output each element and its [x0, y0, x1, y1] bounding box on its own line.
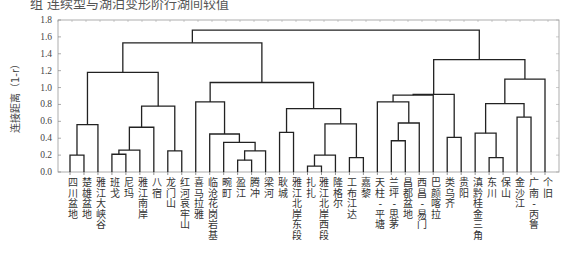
- leaf-label: 类乌齐: [445, 176, 455, 209]
- svg-text:江: 江: [292, 188, 302, 199]
- svg-text:玛: 玛: [124, 188, 134, 199]
- svg-text:龙: 龙: [166, 176, 176, 188]
- svg-text:河: 河: [180, 188, 190, 199]
- cluster-link: [325, 124, 356, 158]
- leaf-label: 金沙江: [515, 176, 525, 209]
- svg-text:楚: 楚: [82, 176, 92, 188]
- svg-text:四: 四: [68, 177, 78, 188]
- svg-text:东: 东: [487, 176, 497, 188]
- svg-text:都: 都: [403, 188, 413, 199]
- svg-text:喀: 喀: [431, 197, 441, 209]
- svg-text:岸: 岸: [292, 209, 302, 220]
- svg-text:江: 江: [236, 188, 246, 199]
- svg-text:平: 平: [375, 209, 385, 220]
- leaf-label: 天柱-平塘: [375, 177, 385, 230]
- svg-text:江: 江: [347, 198, 357, 209]
- svg-text:川: 川: [487, 188, 497, 199]
- svg-text:盈: 盈: [236, 177, 246, 188]
- svg-text:哀: 哀: [180, 197, 190, 209]
- svg-text:地: 地: [68, 208, 78, 220]
- y-axis-label: 连接距离（1-r）: [9, 59, 21, 133]
- svg-text:拉: 拉: [194, 197, 204, 209]
- svg-text:贵: 贵: [459, 176, 469, 188]
- cluster-link: [280, 132, 294, 172]
- leaf-label: 巴颜喀拉: [431, 177, 441, 220]
- svg-text:茅: 茅: [389, 219, 399, 230]
- leaf-label: 临沧花岗岩基: [208, 176, 218, 241]
- y-tick-label: 1.6: [40, 32, 52, 42]
- svg-text:塘: 塘: [375, 218, 385, 230]
- svg-text:盆: 盆: [403, 197, 413, 209]
- svg-text:花: 花: [208, 197, 218, 209]
- svg-text:雅: 雅: [96, 176, 106, 188]
- leaf-labels: 四川盆地楚雄盆地雅江大峡谷班戈尼玛雅江南岸八宿龙门山红河哀牢山喜马拉雅临沧花岗岩…: [68, 172, 553, 241]
- leaf-label: 龙门山: [166, 176, 176, 209]
- svg-text:腾: 腾: [250, 176, 260, 188]
- cluster-link: [505, 79, 545, 172]
- leaf-label: 梁河: [264, 176, 274, 199]
- y-tick-label: 0.0: [40, 167, 52, 177]
- leaf-label: 广南-丙鲁: [529, 177, 539, 230]
- cluster-link: [245, 151, 266, 172]
- svg-text:西: 西: [417, 177, 427, 188]
- leaf-label: 保山: [501, 176, 511, 199]
- svg-text:冲: 冲: [250, 187, 260, 199]
- svg-text:岗: 岗: [208, 209, 218, 220]
- svg-text:巴: 巴: [431, 177, 441, 188]
- svg-text:八: 八: [152, 177, 162, 188]
- leaf-label: 腾冲: [250, 176, 260, 199]
- svg-text:耿: 耿: [278, 176, 288, 188]
- leaf-label: 昌都盆地: [403, 177, 413, 220]
- y-tick-label: 0.6: [40, 116, 52, 126]
- svg-text:畹: 畹: [222, 176, 232, 188]
- svg-text:班: 班: [110, 177, 120, 188]
- y-tick-label: 1.0: [40, 83, 52, 93]
- svg-text:桂: 桂: [473, 197, 483, 209]
- cluster-link: [314, 155, 335, 172]
- cluster-link: [238, 160, 252, 172]
- y-axis: 0.00.20.40.60.81.01.21.41.61.8: [40, 15, 559, 177]
- leaf-label: 尼玛: [124, 177, 134, 199]
- cluster-link: [447, 137, 461, 172]
- cluster-link: [434, 60, 525, 95]
- svg-text:段: 段: [292, 229, 302, 241]
- svg-text:柱: 柱: [375, 187, 385, 199]
- svg-text:红: 红: [180, 176, 190, 188]
- svg-text:町: 町: [222, 188, 232, 199]
- svg-text:门: 门: [417, 218, 427, 230]
- leaf-label: 雅江北岸西段: [319, 176, 329, 241]
- cluster-link: [517, 117, 531, 172]
- svg-text:工: 工: [347, 177, 357, 188]
- cluster-link: [391, 141, 405, 172]
- svg-text:基: 基: [208, 229, 218, 241]
- svg-text:隆: 隆: [333, 176, 343, 188]
- svg-text:东: 东: [292, 218, 302, 230]
- svg-text:金: 金: [515, 176, 525, 188]
- leaf-label: 畹町: [222, 176, 232, 199]
- cluster-link: [224, 142, 255, 172]
- svg-text:保: 保: [501, 176, 511, 188]
- dendrogram-links: [70, 30, 545, 172]
- svg-text:临: 临: [208, 176, 218, 188]
- svg-text:山: 山: [166, 198, 176, 209]
- svg-text:黎: 黎: [361, 187, 371, 199]
- svg-text:个: 个: [543, 177, 553, 188]
- svg-text:雅: 雅: [138, 176, 148, 188]
- cluster-link: [119, 150, 140, 172]
- y-tick-label: 0.4: [40, 133, 52, 143]
- cluster-link: [393, 95, 433, 172]
- svg-text:西: 西: [319, 219, 329, 230]
- svg-text:南: 南: [138, 197, 148, 209]
- svg-text:类: 类: [445, 176, 455, 188]
- cluster-link: [475, 133, 496, 172]
- svg-text:思: 思: [389, 209, 399, 220]
- svg-text:城: 城: [278, 188, 288, 199]
- cluster-link: [142, 106, 175, 151]
- svg-text:阳: 阳: [459, 188, 469, 199]
- svg-text:峡: 峡: [96, 208, 106, 220]
- svg-text:坪: 坪: [389, 187, 399, 199]
- leaf-label: 贵阳: [459, 176, 469, 199]
- svg-text:-: -: [393, 198, 397, 209]
- leaf-label: 喜马拉雅: [194, 176, 204, 220]
- svg-text:沧: 沧: [208, 187, 218, 199]
